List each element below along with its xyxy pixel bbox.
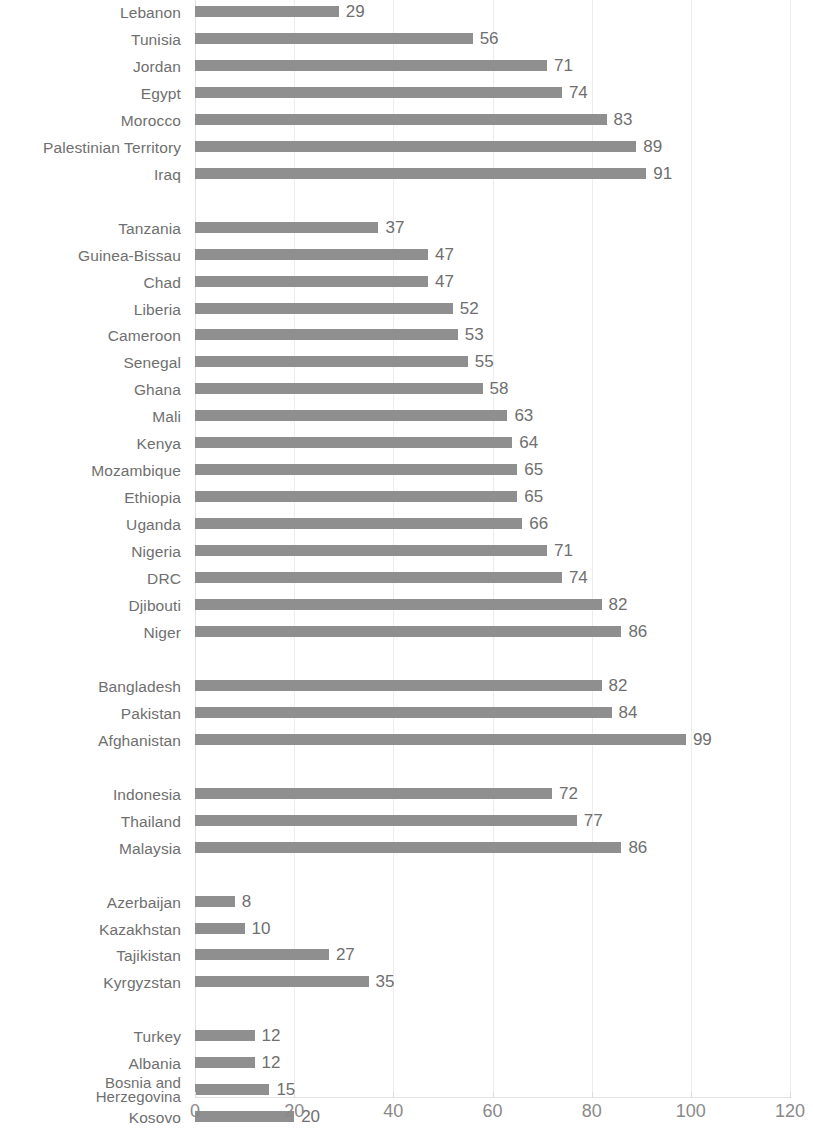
x-tick-label: 40 [383, 1101, 403, 1122]
x-tick-label: 80 [582, 1101, 602, 1122]
category-label: Mali [152, 409, 181, 424]
bar [195, 923, 245, 934]
bar [195, 6, 339, 17]
bar-value-label: 74 [569, 568, 588, 588]
bar-row: Senegal55 [0, 355, 813, 369]
category-label: Tajikistan [116, 948, 181, 963]
category-label: Indonesia [113, 786, 181, 801]
category-label: Egypt [141, 85, 181, 100]
category-label: Afghanistan [98, 732, 181, 747]
bar-value-label: 65 [524, 487, 543, 507]
bar [195, 410, 507, 421]
bar [195, 141, 636, 152]
tick-mark [493, 1092, 494, 1098]
bar-value-label: 71 [554, 56, 573, 76]
bar-row: Kenya64 [0, 436, 813, 450]
bar-row: Tajikistan27 [0, 948, 813, 962]
bar [195, 707, 612, 718]
bar-value-label: 99 [693, 730, 712, 750]
bar-value-label: 37 [385, 218, 404, 238]
bar [195, 1084, 269, 1095]
bar-row: DRC74 [0, 571, 813, 585]
bar-row: Pakistan84 [0, 706, 813, 720]
tick-mark [393, 1092, 394, 1098]
category-label: Senegal [123, 355, 181, 370]
bar-value-label: 27 [336, 945, 355, 965]
bar-value-label: 77 [584, 811, 603, 831]
bar [195, 599, 602, 610]
category-label: Ethiopia [124, 490, 181, 505]
bar-value-label: 35 [376, 972, 395, 992]
category-label: Niger [143, 624, 181, 639]
bar-value-label: 72 [559, 784, 578, 804]
bar [195, 356, 468, 367]
bar [195, 437, 512, 448]
bar-row: Niger86 [0, 625, 813, 639]
bar [195, 572, 562, 583]
bar-value-label: 82 [609, 676, 628, 696]
bar-value-label: 55 [475, 352, 494, 372]
bar-value-label: 66 [529, 514, 548, 534]
x-tick-label: 120 [775, 1101, 805, 1122]
bar [195, 545, 547, 556]
category-label: Iraq [154, 166, 181, 181]
bar-row: Turkey12 [0, 1029, 813, 1043]
bar [195, 518, 522, 529]
bar [195, 680, 602, 691]
bar-value-label: 47 [435, 245, 454, 265]
bar [195, 1057, 255, 1068]
category-label: Malaysia [119, 840, 181, 855]
bar-row: Bangladesh82 [0, 679, 813, 693]
category-label: Djibouti [129, 597, 182, 612]
bar-row: Chad47 [0, 275, 813, 289]
category-label: Morocco [121, 112, 181, 127]
bar-row: Nigeria71 [0, 544, 813, 558]
bar-value-label: 12 [262, 1053, 281, 1073]
x-tick-label: 20 [284, 1101, 304, 1122]
bar-value-label: 86 [628, 622, 647, 642]
bar-row: Ethiopia65 [0, 490, 813, 504]
bar-row: Morocco83 [0, 113, 813, 127]
bar-row: Tunisia56 [0, 32, 813, 46]
bar-row: Cameroon53 [0, 328, 813, 342]
bar-value-label: 12 [262, 1026, 281, 1046]
bar-value-label: 52 [460, 299, 479, 319]
bar-value-label: 82 [609, 595, 628, 615]
category-label: Lebanon [120, 5, 181, 20]
category-label: Kazakhstan [99, 921, 181, 936]
bar-value-label: 71 [554, 541, 573, 561]
category-label: Kenya [137, 436, 181, 451]
category-label: Chad [144, 274, 181, 289]
bar [195, 491, 517, 502]
bar [195, 842, 621, 853]
category-label: Cameroon [108, 328, 181, 343]
bar [195, 249, 428, 260]
bar [195, 114, 607, 125]
category-label: Nigeria [131, 544, 181, 559]
bar [195, 329, 458, 340]
bar-row: Afghanistan99 [0, 733, 813, 747]
bar-chart: Lebanon29Tunisia56Jordan71Egypt74Morocco… [0, 0, 813, 1136]
bar [195, 60, 547, 71]
bar-value-label: 84 [619, 703, 638, 723]
bar-row: Jordan71 [0, 59, 813, 73]
bar-row: Iraq91 [0, 167, 813, 181]
category-label: Kosovo [129, 1110, 181, 1125]
bar [195, 626, 621, 637]
category-label: Jordan [133, 58, 181, 73]
bar-value-label: 63 [514, 406, 533, 426]
category-label: Mozambique [91, 463, 181, 478]
bar-value-label: 47 [435, 272, 454, 292]
bar-row: Mozambique65 [0, 463, 813, 477]
bar [195, 168, 646, 179]
bar-value-label: 53 [465, 325, 484, 345]
bar-row: Kazakhstan10 [0, 922, 813, 936]
bar [195, 1111, 294, 1122]
bar-row: Thailand77 [0, 814, 813, 828]
bar [195, 815, 577, 826]
bar-value-label: 86 [628, 838, 647, 858]
bar-value-label: 8 [242, 892, 251, 912]
category-label: Bosnia and Herzegovina [31, 1076, 181, 1104]
bar [195, 788, 552, 799]
category-label: Albania [129, 1056, 181, 1071]
